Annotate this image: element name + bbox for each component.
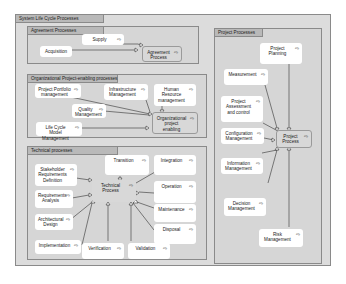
technical-process-node[interactable]: Technical Process ⇨	[92, 180, 136, 202]
package-title: System Life Cycle Processes	[16, 15, 104, 23]
link-arrow-icon: ⇨	[70, 167, 74, 172]
link-arrow-icon: ⇨	[189, 227, 193, 232]
link-arrow-icon: ⇨	[189, 184, 193, 189]
configuration-management-node[interactable]: Configuration Management ⇨	[221, 128, 264, 144]
link-arrow-icon: ⇨	[142, 158, 146, 163]
integration-node[interactable]: Integration ⇨	[154, 155, 196, 175]
implementation-node[interactable]: Implementation ⇨	[35, 240, 81, 254]
maintenance-node[interactable]: Maintenance ⇨	[154, 204, 196, 222]
life-cycle-model-node[interactable]: Life Cycle Model Management ⇨	[36, 122, 82, 136]
acquisition-node[interactable]: Acquisition	[40, 46, 72, 57]
transition-node[interactable]: Transition ⇨	[105, 155, 149, 175]
project-planning-node[interactable]: Project Planning ⇨	[260, 43, 302, 64]
package-title: Technical processes	[28, 147, 118, 155]
supply-node[interactable]: Supply ⇨	[82, 34, 124, 45]
link-arrow-icon: ⇨	[261, 72, 265, 77]
link-arrow-icon: ⇨	[66, 193, 70, 198]
link-arrow-icon: ⇨	[75, 125, 79, 130]
architectural-design-node[interactable]: Architectural Design ⇨	[35, 214, 73, 230]
package-title: Organizational Project-enabling processe…	[28, 75, 118, 83]
measurement-node[interactable]: Measurement ⇨	[224, 69, 268, 85]
risk-management-node[interactable]: Risk Management ⇨	[259, 229, 303, 247]
link-arrow-icon: ⇨	[174, 50, 178, 55]
link-arrow-icon: ⇨	[295, 46, 299, 51]
link-arrow-icon: ⇨	[189, 158, 193, 163]
link-arrow-icon: ⇨	[99, 107, 103, 112]
link-arrow-icon: ⇨	[189, 87, 193, 92]
link-arrow-icon: ⇨	[74, 243, 78, 248]
link-arrow-icon: ⇨	[257, 131, 261, 136]
agreement-process-node[interactable]: Agreement Process ⇨	[142, 46, 182, 62]
organizational-enabling-node[interactable]: Organizational project enabling ⇨	[152, 112, 198, 134]
requirements-analysis-node[interactable]: Requirements Analysis ⇨	[35, 190, 73, 208]
link-arrow-icon: ⇨	[259, 201, 263, 206]
human-resource-node[interactable]: Human Resource management ⇨	[154, 84, 196, 106]
link-arrow-icon: ⇨	[256, 99, 260, 104]
operation-node[interactable]: Operation ⇨	[154, 181, 196, 203]
link-arrow-icon: ⇨	[74, 87, 78, 92]
stakeholder-requirements-node[interactable]: Stakeholder Requirements Definition ⇨	[35, 164, 77, 186]
link-arrow-icon: ⇨	[163, 246, 167, 251]
information-management-node[interactable]: Information Management ⇨	[221, 158, 263, 174]
link-arrow-icon: ⇨	[66, 217, 70, 222]
verification-node[interactable]: Verification ⇨	[82, 243, 124, 259]
link-arrow-icon: ⇨	[141, 87, 145, 92]
link-arrow-icon: ⇨	[296, 232, 300, 237]
link-arrow-icon: ⇨	[190, 116, 194, 121]
package-title: Project Processes	[215, 29, 263, 37]
decision-management-node[interactable]: Decision Management ⇨	[224, 198, 266, 216]
link-arrow-icon: ⇨	[304, 134, 308, 139]
link-arrow-icon: ⇨	[117, 37, 121, 42]
project-process-node[interactable]: Project Process ⇨	[276, 130, 312, 148]
link-arrow-icon: ⇨	[256, 161, 260, 166]
validation-node[interactable]: Validation ⇨	[128, 243, 170, 259]
link-arrow-icon: ⇨	[129, 183, 133, 188]
link-arrow-icon: ⇨	[117, 246, 121, 251]
project-assessment-node[interactable]: Project Assessment and control ⇨	[221, 96, 263, 122]
portfolio-node[interactable]: Project Portfolio management ⇨	[35, 84, 81, 98]
link-arrow-icon: ⇨	[189, 207, 193, 212]
infrastructure-node[interactable]: Infrastructure Management ⇨	[104, 84, 148, 100]
quality-node[interactable]: Quality Management ⇨	[72, 104, 106, 118]
disposal-node[interactable]: Disposal ⇨	[154, 224, 196, 244]
